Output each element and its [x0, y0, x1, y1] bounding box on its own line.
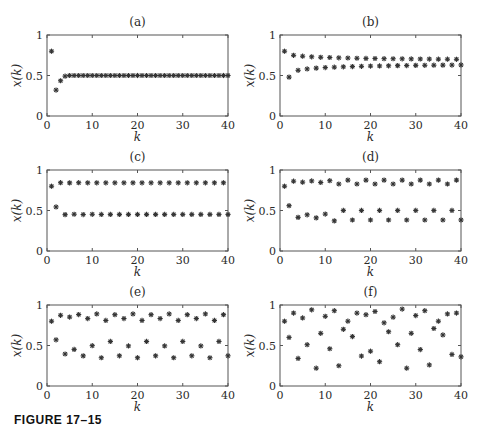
data-point [117, 353, 122, 358]
data-point [198, 73, 203, 78]
y-tick-label: 0 [269, 245, 276, 258]
data-point [148, 180, 153, 185]
data-point [53, 87, 58, 92]
data-point [431, 208, 436, 213]
data-point [103, 180, 108, 185]
data-point [171, 212, 176, 217]
data-point [221, 312, 226, 317]
data-point [63, 74, 68, 79]
data-point [58, 78, 63, 83]
data-point [180, 212, 185, 217]
x-tick-label: 40 [454, 254, 468, 267]
data-point [286, 203, 291, 208]
data-point [318, 180, 323, 185]
data-point [72, 347, 77, 352]
data-point [67, 180, 72, 185]
data-point [409, 56, 414, 61]
data-point [427, 362, 432, 367]
panel-title-a: (a) [129, 15, 146, 29]
data-point [449, 352, 454, 357]
data-point [318, 55, 323, 60]
data-point [300, 315, 305, 320]
data-point [436, 178, 441, 183]
data-point [309, 178, 314, 183]
data-point [53, 204, 58, 209]
data-point [112, 180, 117, 185]
y-tick-label: 1 [36, 164, 43, 177]
data-point [327, 55, 332, 60]
data-point [427, 56, 432, 61]
data-point [436, 319, 441, 324]
x-tick-label: 0 [277, 254, 284, 267]
data-point [350, 64, 355, 69]
data-point [404, 366, 409, 371]
data-point [85, 316, 90, 321]
data-point [153, 212, 158, 217]
data-point [90, 73, 95, 78]
x-tick-label: 30 [176, 254, 190, 267]
series-b [282, 49, 464, 80]
data-point [72, 73, 77, 78]
data-point [345, 178, 350, 183]
data-point [309, 54, 314, 59]
x-tick-label: 30 [176, 389, 190, 402]
data-point [126, 343, 131, 348]
data-point [216, 339, 221, 344]
data-point [332, 308, 337, 313]
data-point [103, 318, 108, 323]
data-point [117, 212, 122, 217]
data-point [440, 217, 445, 222]
x-tick-label: 40 [221, 119, 235, 132]
x-tick-label: 10 [318, 254, 332, 267]
data-point [212, 180, 217, 185]
data-point [386, 63, 391, 68]
data-point [171, 355, 176, 360]
x-tick-label: 30 [409, 389, 423, 402]
axes-frame-b [280, 35, 461, 116]
data-point [194, 73, 199, 78]
x-tick-label: 30 [409, 254, 423, 267]
data-point [185, 73, 190, 78]
data-point [368, 217, 373, 222]
data-point [431, 63, 436, 68]
data-point [67, 314, 72, 319]
y-tick-label: 0.5 [259, 70, 277, 83]
data-point [282, 49, 287, 54]
data-point [90, 343, 95, 348]
data-point [58, 180, 63, 185]
data-point [144, 73, 149, 78]
y-axis-label-e: x(k) [10, 333, 24, 357]
data-point [377, 63, 382, 68]
data-point [139, 73, 144, 78]
data-point [359, 208, 364, 213]
data-point [404, 63, 409, 68]
data-point [391, 315, 396, 320]
x-tick-label: 10 [318, 389, 332, 402]
data-point [368, 64, 373, 69]
data-point [185, 180, 190, 185]
data-point [305, 66, 310, 71]
data-point [422, 63, 427, 68]
data-point [144, 339, 149, 344]
x-tick-label: 30 [409, 119, 423, 132]
data-point [144, 212, 149, 217]
data-point [99, 73, 104, 78]
data-point [207, 212, 212, 217]
data-point [108, 339, 113, 344]
y-tick-label: 0 [269, 380, 276, 393]
y-tick-label: 0 [36, 110, 43, 123]
data-point [207, 73, 212, 78]
data-point [418, 178, 423, 183]
x-axis-label-c: k [134, 265, 141, 279]
y-tick-label: 0 [36, 380, 43, 393]
data-point [327, 346, 332, 351]
data-point [454, 57, 459, 62]
data-point [359, 64, 364, 69]
data-point [212, 318, 217, 323]
data-point [314, 66, 319, 71]
data-point [418, 347, 423, 352]
data-point [167, 180, 172, 185]
data-point [225, 73, 230, 78]
data-point [318, 331, 323, 336]
data-point [171, 73, 176, 78]
